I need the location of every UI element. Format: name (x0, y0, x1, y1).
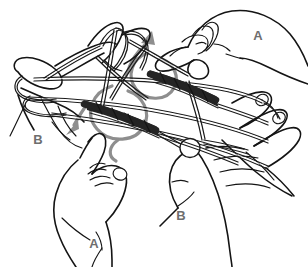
label-b-bottom-right: B (176, 208, 185, 223)
label-b-left: B (33, 132, 42, 147)
label-a-bottom-left: A (89, 236, 99, 251)
illustration-canvas: A B A B (0, 0, 308, 267)
string-figure-illustration: A B A B (0, 0, 308, 267)
label-a-top-right: A (253, 28, 263, 43)
